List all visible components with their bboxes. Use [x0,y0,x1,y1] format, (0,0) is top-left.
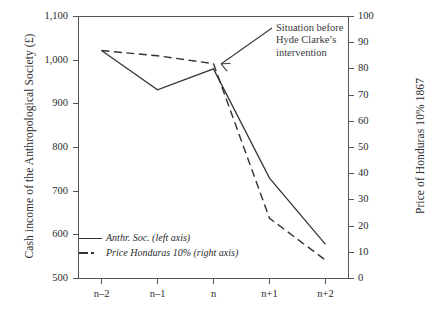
legend-label-price-honduras: Price Honduras 10% (right axis) [106,246,238,261]
annotation-line-1: Situation before [276,22,396,34]
annotation-line-3: intervention [276,47,396,59]
legend-dashed-line-icon [79,249,102,257]
y-axis-left-title: Cash income of the Anthropological Socie… [23,21,35,271]
xtick-n-plus-2: n+2 [303,288,349,299]
ytick-left-1100: 1,100 [24,10,68,21]
ytick-right-70: 70 [358,89,388,100]
ytick-right-80: 80 [358,62,388,73]
annotation-situation-before: Situation before Hyde Clarke’s intervent… [276,22,396,59]
ytick-left-500: 500 [24,272,68,283]
ytick-right-20: 20 [358,220,388,231]
legend-item-price-honduras: Price Honduras 10% (right axis) [79,246,238,261]
xtick-n-plus-1: n+1 [247,288,293,299]
left-axis-ticks [73,17,79,279]
ytick-right-50: 50 [358,141,388,152]
ytick-right-0: 0 [358,272,388,283]
annotation-arrow [221,28,272,71]
ytick-right-10: 10 [358,246,388,257]
ytick-right-40: 40 [358,167,388,178]
y-axis-right-title: Price of Honduras 10% 1867 [414,21,426,271]
ytick-right-60: 60 [358,115,388,126]
series-line-anthr-soc [102,51,326,245]
xtick-n-minus-2: n–2 [79,288,125,299]
legend-item-anthr-soc: Anthr. Soc. (left axis) [79,231,238,246]
legend-solid-line-icon [79,234,102,242]
xtick-n-minus-1: n–1 [135,288,181,299]
legend-label-anthr-soc: Anthr. Soc. (left axis) [106,231,190,246]
chart-legend: Anthr. Soc. (left axis) Price Honduras 1… [79,231,238,260]
annotation-line-2: Hyde Clarke’s [276,34,396,46]
x-axis-ticks [102,279,326,285]
xtick-n: n [191,288,237,299]
series-line-price-honduras [102,51,326,261]
ytick-right-100: 100 [358,10,388,21]
ytick-right-30: 30 [358,193,388,204]
